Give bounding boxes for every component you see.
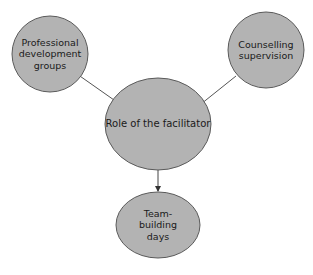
node-top-right-line-1: Counselling (238, 39, 293, 50)
node-top-right: Counselling supervision (228, 12, 304, 88)
node-top-left-line-2: development (19, 48, 82, 59)
node-top-left: Professional development groups (12, 16, 88, 92)
node-top-right-line-2: supervision (239, 50, 293, 61)
node-center: Role of the facilitator (105, 78, 211, 170)
node-center-label: Role of the facilitator (106, 118, 211, 130)
node-top-left-line-3: groups (34, 60, 67, 71)
node-bottom-line-2: building (139, 219, 177, 230)
node-bottom-line-3: days (147, 231, 169, 242)
node-top-left-line-1: Professional (21, 37, 78, 48)
node-bottom-line-1: Team- (144, 208, 173, 219)
node-bottom: Team- building days (116, 192, 200, 258)
diagram-canvas: Professional development groups Counsell… (0, 0, 313, 275)
